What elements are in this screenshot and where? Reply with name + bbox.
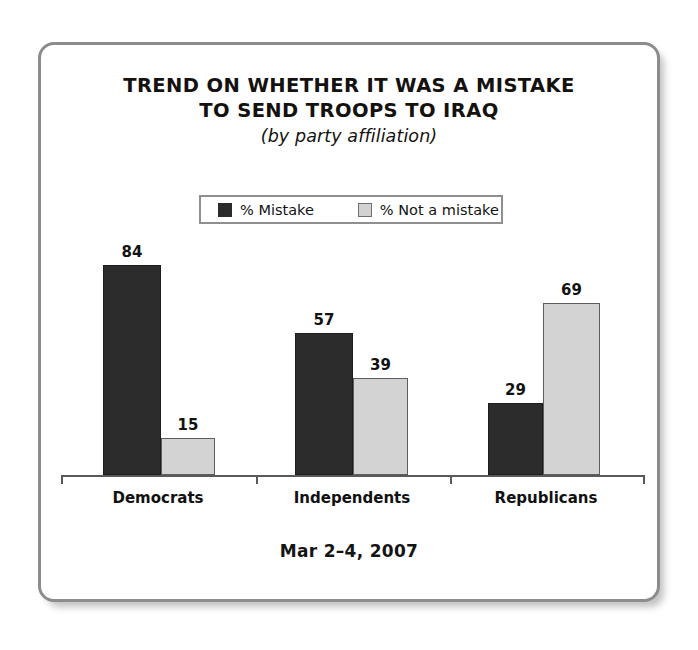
chart-title-line-1: TREND ON WHETHER IT WAS A MISTAKE — [41, 73, 657, 98]
chart-title-line-2: TO SEND TROOPS TO IRAQ — [41, 98, 657, 123]
legend-item-not-a-mistake: % Not a mistake — [358, 197, 499, 222]
bar-value-label: 15 — [145, 416, 231, 434]
axis-tick — [450, 475, 452, 484]
axis-tick — [61, 475, 63, 484]
chart-title-block: TREND ON WHETHER IT WAS A MISTAKE TO SEN… — [41, 73, 657, 150]
category-label-democrats: Democrats — [78, 489, 238, 507]
legend-label-not-a-mistake: % Not a mistake — [380, 202, 499, 218]
bar-value-label: 29 — [472, 381, 559, 399]
category-label-republicans: Republicans — [466, 489, 626, 507]
chart-card: TREND ON WHETHER IT WAS A MISTAKE TO SEN… — [38, 42, 660, 602]
bar — [543, 303, 600, 476]
bar-value-label: 69 — [527, 281, 616, 299]
bar — [488, 403, 543, 476]
legend-swatch-dark-square-icon — [218, 203, 232, 217]
bar — [161, 438, 215, 476]
legend-item-mistake: % Mistake — [218, 197, 314, 222]
bar — [353, 378, 408, 476]
chart-subtitle: (by party affiliation) — [41, 123, 657, 150]
bar — [103, 265, 161, 475]
bar-value-label: 39 — [337, 356, 424, 374]
bar-value-label: 57 — [279, 311, 369, 329]
legend-label-mistake: % Mistake — [240, 202, 314, 218]
chart-legend: % Mistake % Not a mistake — [199, 195, 503, 224]
category-label-independents: Independents — [272, 489, 432, 507]
axis-tick — [256, 475, 258, 484]
legend-swatch-light-square-icon — [358, 203, 372, 217]
x-axis-line — [61, 475, 643, 477]
bar-value-label: 84 — [87, 243, 177, 261]
survey-date-label: Mar 2–4, 2007 — [41, 541, 657, 561]
axis-tick — [643, 475, 645, 484]
bar — [295, 333, 353, 476]
